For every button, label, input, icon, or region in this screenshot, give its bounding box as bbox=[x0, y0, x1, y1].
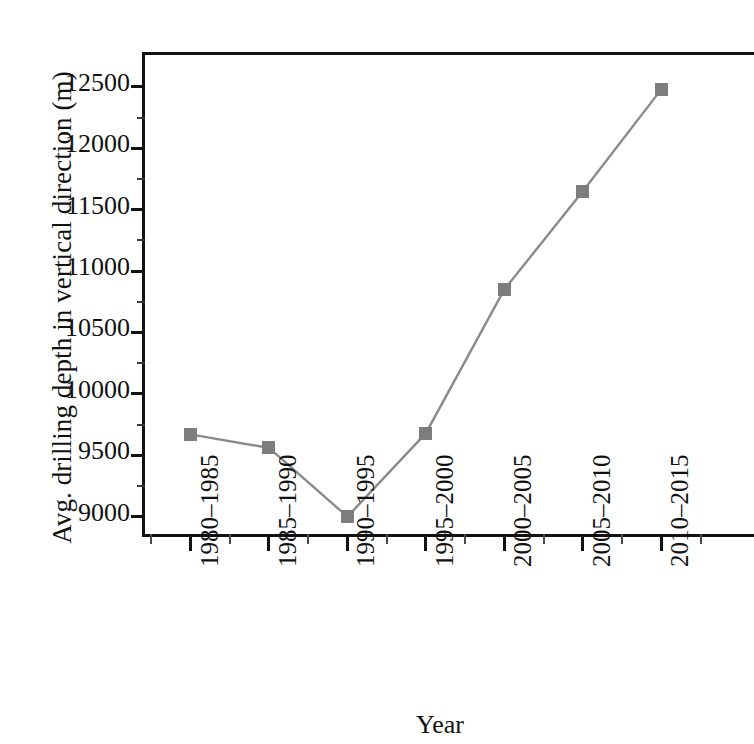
x-axis-tick-label: 1990–1995 bbox=[353, 407, 379, 567]
x-axis-tick-label: 2010–2015 bbox=[667, 407, 693, 567]
x-axis-tick-label: 1985–1990 bbox=[275, 407, 301, 567]
x-axis-tick-label: 1995–2000 bbox=[432, 407, 458, 567]
x-axis-title: Year bbox=[360, 710, 520, 740]
chart-figure: Avg. drilling depth in vertical directio… bbox=[0, 0, 754, 744]
x-axis-tick-label: 2000–2005 bbox=[510, 407, 536, 567]
x-axis-tick-labels: 1980–19851985–19901990–19951995–20002000… bbox=[0, 0, 754, 744]
x-axis-tick-label: 1980–1985 bbox=[197, 407, 223, 567]
x-axis-tick-label: 2005–2010 bbox=[589, 407, 615, 567]
